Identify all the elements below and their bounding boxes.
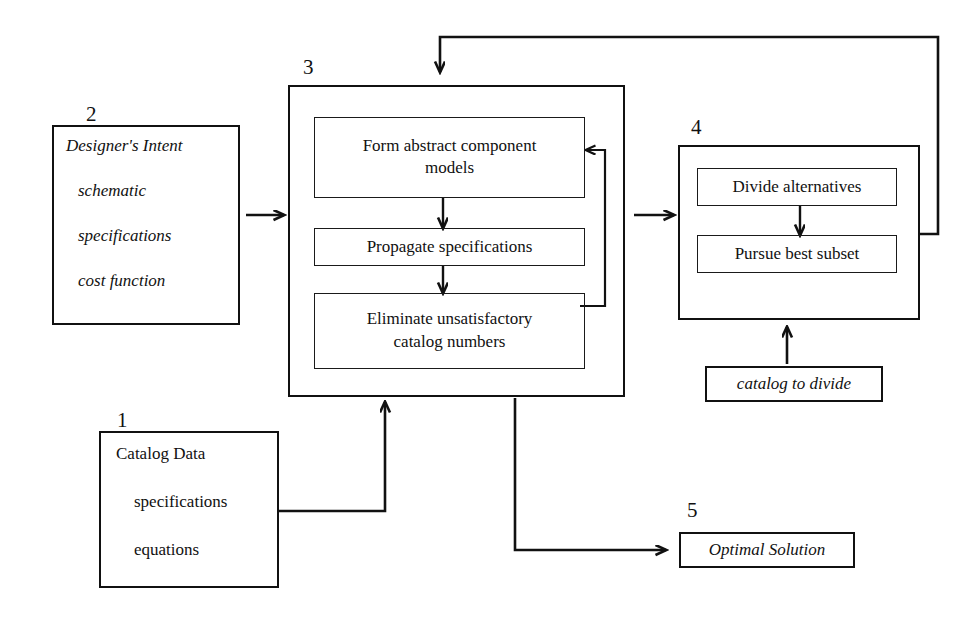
block2-line-1: Designer's Intent — [66, 136, 182, 156]
connector-block1-to-block3 — [279, 402, 385, 511]
diagram-canvas: 2 Designer's Intent schematic specificat… — [0, 0, 974, 626]
block2-line-4: cost function — [78, 271, 165, 291]
block1-line-3: equations — [134, 540, 199, 560]
block3-step-2: Propagate specifications — [314, 228, 585, 266]
block4-step-2: Pursue best subset — [697, 235, 897, 273]
block4-number: 4 — [691, 117, 702, 138]
block4-step-2-label: Pursue best subset — [698, 243, 896, 266]
block1-line-2: specifications — [134, 492, 227, 512]
block5-label: Optimal Solution — [681, 539, 853, 562]
block1-number: 1 — [117, 410, 128, 431]
block3-step-1-line-1: Form abstract component — [363, 136, 537, 155]
block1-line-1: Catalog Data — [116, 444, 205, 464]
block3-number: 3 — [303, 57, 314, 78]
block5: Optimal Solution — [679, 532, 855, 568]
catalog-to-divide-label: catalog to divide — [707, 373, 881, 396]
block3-step-2-label: Propagate specifications — [315, 236, 584, 259]
block4-step-1-label: Divide alternatives — [698, 176, 896, 199]
block3-step-3-label: Eliminate unsatisfactory catalog numbers — [315, 308, 584, 354]
block3-step-3-line-2: catalog numbers — [394, 332, 506, 351]
block2-line-2: schematic — [78, 181, 146, 201]
block4-step-1: Divide alternatives — [697, 168, 897, 206]
block2-line-3: specifications — [78, 226, 171, 246]
block3-step-1-line-2: models — [425, 159, 474, 178]
block3-step-1-label: Form abstract component models — [315, 135, 584, 181]
block3-step-1: Form abstract component models — [314, 117, 585, 198]
connector-block3-to-block5 — [515, 398, 666, 550]
block2-number: 2 — [86, 104, 97, 125]
block5-number: 5 — [687, 500, 698, 521]
catalog-to-divide-box: catalog to divide — [705, 366, 883, 402]
block3-step-3: Eliminate unsatisfactory catalog numbers — [314, 293, 585, 369]
block3-step-3-line-1: Eliminate unsatisfactory — [367, 309, 533, 328]
